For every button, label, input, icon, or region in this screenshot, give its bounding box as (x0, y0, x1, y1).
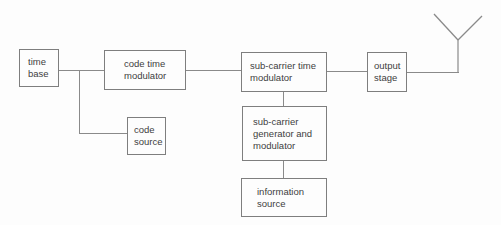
connector-timebase-codemod (58, 70, 105, 71)
block-output-stage: output stage (367, 52, 407, 92)
connector-subcmod-generator (283, 92, 284, 106)
block-information-source: information source (241, 178, 327, 217)
block-sub-carrier-generator-and-modulator: sub-carrier generator and modulator (242, 106, 327, 161)
block-code-source: code source (127, 117, 166, 155)
connector-branch-codesource (79, 133, 127, 134)
block-sub-carrier-generator-and-modulator-label: sub-carrier generator and modulator (253, 116, 312, 152)
connector-subcmod-output (327, 71, 367, 72)
block-code-time-modulator: code time modulator (104, 50, 186, 90)
connector-generator-infosource (283, 161, 284, 178)
block-time-base-label: time base (28, 56, 49, 80)
antenna-icon (425, 8, 495, 74)
block-information-source-label: information source (257, 186, 304, 210)
block-code-source-label: code source (134, 124, 163, 148)
block-sub-carrier-time-modulator: sub-carrier time modulator (241, 52, 327, 92)
block-time-base: time base (19, 49, 59, 87)
connector-branch-down (79, 70, 80, 134)
block-sub-carrier-time-modulator-label: sub-carrier time modulator (250, 60, 316, 84)
connector-codemod-subcmod (186, 70, 241, 71)
block-code-time-modulator-label: code time modulator (124, 58, 166, 82)
block-diagram: time base code time modulator sub-carrie… (0, 0, 501, 225)
block-output-stage-label: output stage (374, 60, 400, 84)
